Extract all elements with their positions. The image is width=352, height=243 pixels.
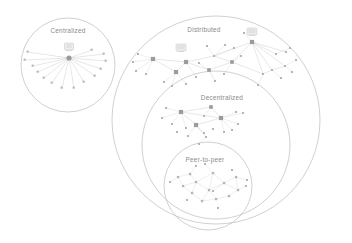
hub-nodes [151,40,254,74]
graph-centralized [24,43,107,89]
network-topology-diagram: Centralized Distributed Decentralized Pe… [0,0,352,243]
graph-distributed [132,28,297,87]
peer-nodes [169,163,248,209]
leaf-nodes [24,49,107,89]
leaf-nodes [161,107,244,145]
server-icon-distributed-right [247,28,257,36]
label-decentralized: Decentralized [201,94,244,101]
server-icon-centralized [65,43,74,51]
label-peer-to-peer: Peer-to-peer [186,156,225,164]
label-centralized: Centralized [50,27,85,34]
graph-decentralized [161,105,244,145]
graph-peer-to-peer [169,163,248,209]
diagram-canvas: Centralized Distributed Decentralized Pe… [0,0,352,243]
server-icon-distributed-left [176,44,186,52]
label-distributed: Distributed [187,26,220,33]
circle-distributed [112,16,320,224]
hub-node [66,55,71,60]
